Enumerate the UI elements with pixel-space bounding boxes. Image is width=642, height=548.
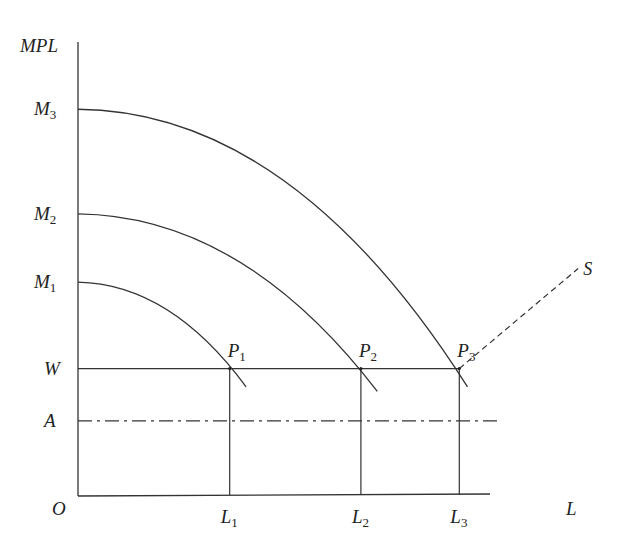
y-tick-label-w: W xyxy=(44,358,62,379)
origin-label: O xyxy=(52,498,66,519)
point-label-p3: P3 xyxy=(456,340,475,364)
mpl-diagram: MPLLOM3M2M1WAL1L2L3SP1P2P3 xyxy=(0,0,642,548)
y-tick-label-m2: M2 xyxy=(33,203,56,227)
y-tick-label-m3: M3 xyxy=(33,98,56,122)
curve-mpl1 xyxy=(78,282,246,387)
x-axis-label: L xyxy=(565,498,577,519)
point-p2 xyxy=(359,367,362,370)
y-tick-label-a: A xyxy=(42,410,56,431)
point-p3 xyxy=(458,367,461,370)
supply-curve-s xyxy=(459,269,578,369)
x-tick-label-l3: L3 xyxy=(449,506,467,530)
y-axis-label: MPL xyxy=(19,35,58,56)
point-p1 xyxy=(228,367,231,370)
point-label-p1: P1 xyxy=(227,340,246,364)
x-axis xyxy=(78,494,490,496)
y-tick-label-m1: M1 xyxy=(33,271,56,295)
x-tick-label-l2: L2 xyxy=(351,506,369,530)
point-label-p2: P2 xyxy=(358,340,377,364)
curve-mpl3 xyxy=(78,109,468,387)
supply-curve-label: S xyxy=(583,259,592,279)
x-tick-label-l1: L1 xyxy=(220,506,238,530)
curve-mpl2 xyxy=(78,214,377,391)
